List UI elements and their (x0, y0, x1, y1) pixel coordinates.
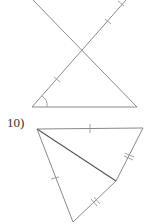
lower-right-side (73, 181, 116, 222)
upper-right-side (116, 128, 143, 181)
crossing-line-right-to-left (32, 0, 126, 107)
left-side (37, 129, 73, 222)
figure-10: 10) (7, 115, 143, 222)
problem-number-label: 10) (7, 115, 24, 130)
geometry-worksheet: 10) (0, 0, 153, 224)
diagonal (37, 129, 116, 181)
crossing-line-left-to-right (33, 0, 137, 107)
angle-arc-marker (42, 96, 47, 107)
tick-mark-left-side (51, 177, 59, 179)
figure-9-partial (32, 0, 137, 107)
